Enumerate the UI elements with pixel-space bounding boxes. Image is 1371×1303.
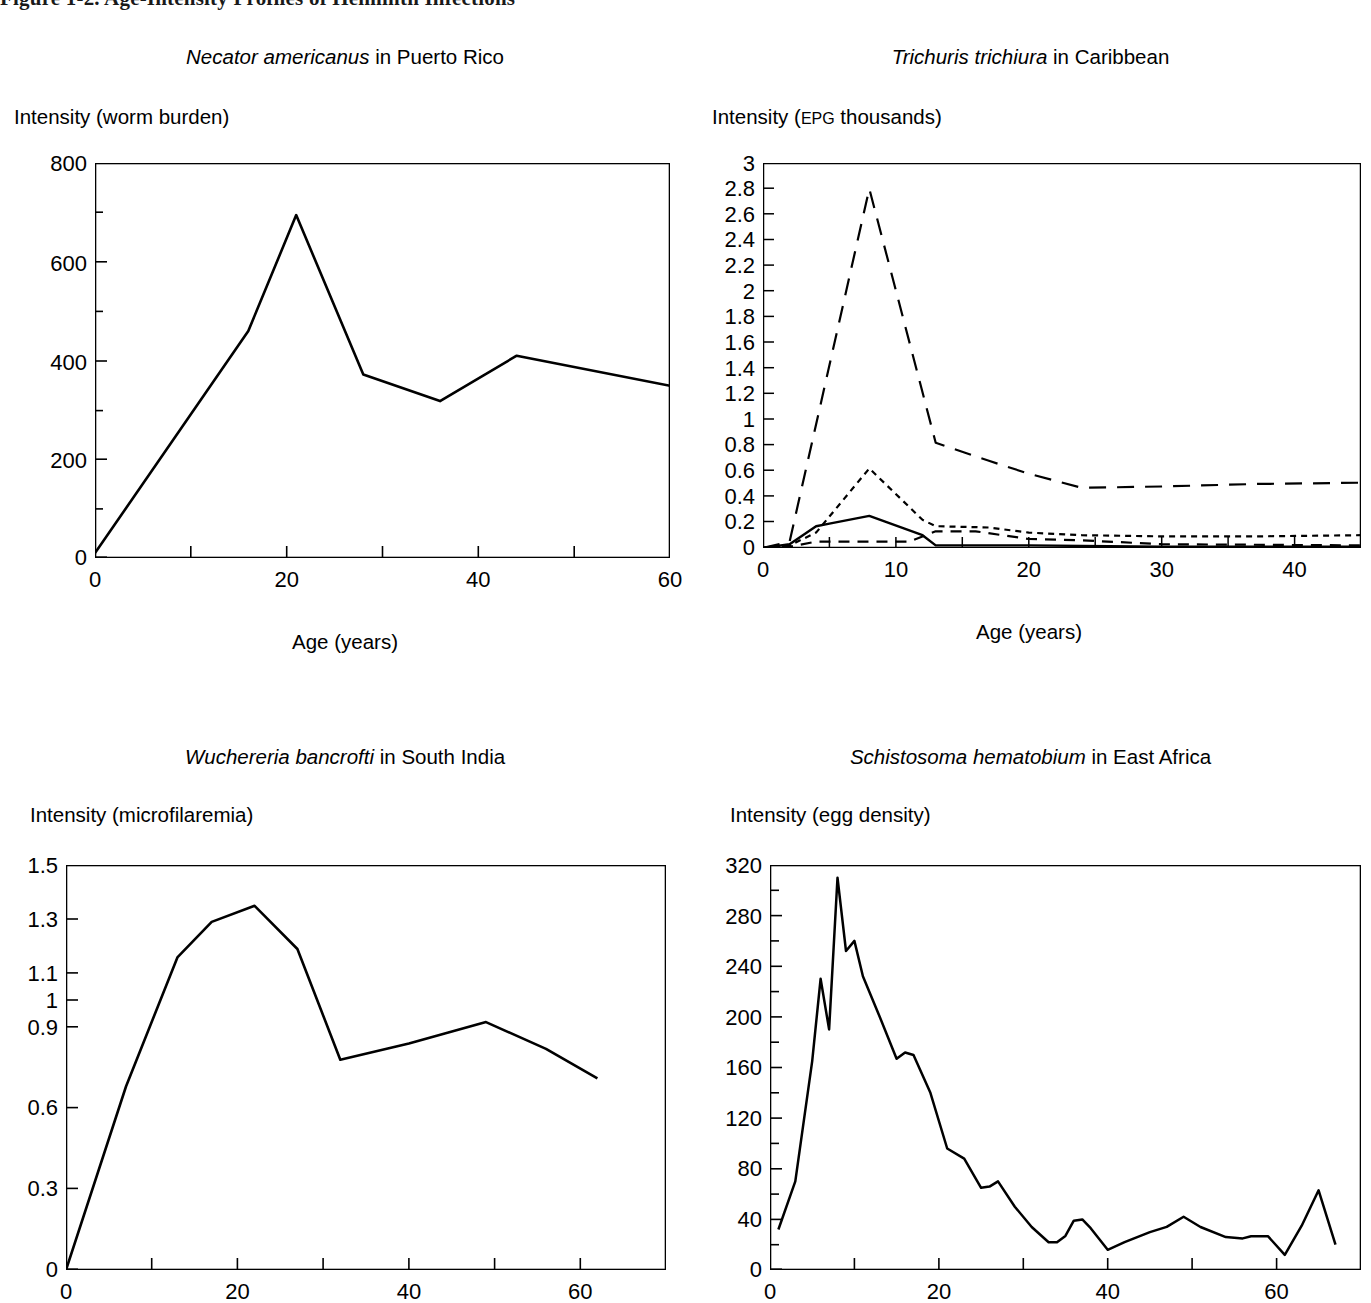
y-axis-label: Intensity (egg density) bbox=[730, 803, 931, 827]
x-axis-label: Age (years) bbox=[0, 630, 690, 654]
y-tick-label: 800 bbox=[17, 151, 87, 177]
y-tick-label: 1 bbox=[705, 407, 755, 433]
panel-wuchereria-south-india: Wuchereria bancrofti in South India Inte… bbox=[0, 745, 690, 1298]
y-tick-label: 2.6 bbox=[705, 202, 755, 228]
y-tick-label: 1.1 bbox=[4, 961, 58, 987]
panel-title: Necator americanus in Puerto Rico bbox=[0, 45, 690, 69]
x-axis-ticks bbox=[770, 1258, 1361, 1270]
y-tick-label: 1.3 bbox=[4, 907, 58, 933]
y-tick-label: 240 bbox=[700, 954, 762, 980]
panel-title: Schistosoma hematobium in East Africa bbox=[690, 745, 1371, 769]
x-tick-label: 0 bbox=[738, 557, 788, 583]
y-axis-ticks bbox=[770, 890, 782, 1269]
y-tick-label: 320 bbox=[700, 853, 762, 879]
x-axis-ticks bbox=[95, 546, 670, 558]
plot-area: 0 0.3 0.6 0.9 1 1.1 1.3 1.5 0 20 40 60 bbox=[66, 865, 666, 1270]
plot-frame bbox=[771, 866, 1361, 1270]
data-series-microfilaremia bbox=[66, 906, 597, 1270]
y-tick-label: 1.8 bbox=[705, 304, 755, 330]
y-axis-label-text: Intensity ( bbox=[712, 105, 801, 128]
panel-title-location: in East Africa bbox=[1086, 745, 1211, 768]
y-tick-label: 0.2 bbox=[705, 509, 755, 535]
y-tick-label: 2.8 bbox=[705, 176, 755, 202]
x-tick-label: 20 bbox=[1004, 557, 1054, 583]
y-tick-label: 600 bbox=[17, 251, 87, 277]
line-chart-svg bbox=[95, 163, 670, 558]
x-tick-label: 20 bbox=[262, 567, 312, 593]
figure-caption: Figure 1-2. Age-Intensity Profiles of He… bbox=[0, 0, 760, 11]
y-axis-label-text: Intensity (worm burden) bbox=[14, 105, 229, 128]
x-tick-label: 40 bbox=[1083, 1279, 1133, 1303]
line-chart-svg bbox=[763, 163, 1361, 548]
y-tick-label: 2.2 bbox=[705, 253, 755, 279]
y-tick-label: 0.8 bbox=[705, 432, 755, 458]
y-tick-label: 0.6 bbox=[4, 1095, 58, 1121]
panel-title-location: in South India bbox=[374, 745, 505, 768]
panel-schistosoma-east-africa: Schistosoma hematobium in East Africa In… bbox=[690, 745, 1371, 1298]
y-tick-label: 1.2 bbox=[705, 381, 755, 407]
x-axis-label: Age (years) bbox=[730, 620, 1328, 644]
x-tick-label: 10 bbox=[871, 557, 921, 583]
data-series-community-a bbox=[763, 189, 1361, 548]
panel-title-species: Necator americanus bbox=[186, 45, 369, 68]
panel-title-location: in Puerto Rico bbox=[370, 45, 504, 68]
y-axis-ticks bbox=[66, 919, 78, 1269]
line-chart-svg bbox=[770, 865, 1361, 1270]
y-tick-label: 3 bbox=[705, 151, 755, 177]
y-tick-label: 200 bbox=[700, 1005, 762, 1031]
x-tick-label: 60 bbox=[1252, 1279, 1302, 1303]
panel-title-species: Trichuris trichiura bbox=[892, 45, 1048, 68]
y-tick-label: 2.4 bbox=[705, 227, 755, 253]
plot-frame bbox=[67, 866, 666, 1270]
y-axis-ticks bbox=[763, 188, 774, 547]
panel-title: Trichuris trichiura in Caribbean bbox=[690, 45, 1371, 69]
y-tick-label: 400 bbox=[17, 350, 87, 376]
plot-area: 0 0.2 0.4 0.6 0.8 1 1.2 1.4 1.6 1.8 2 2.… bbox=[763, 163, 1361, 548]
panel-title: Wuchereria bancrofti in South India bbox=[0, 745, 690, 769]
y-tick-label: 0.4 bbox=[705, 484, 755, 510]
plot-frame bbox=[764, 164, 1361, 548]
y-tick-label: 280 bbox=[700, 904, 762, 930]
y-tick-label: 80 bbox=[700, 1156, 762, 1182]
x-tick-label: 40 bbox=[453, 567, 503, 593]
y-tick-label: 40 bbox=[700, 1207, 762, 1233]
panel-title-species: Schistosoma hematobium bbox=[850, 745, 1086, 768]
x-tick-label: 20 bbox=[212, 1279, 262, 1303]
x-tick-label: 60 bbox=[645, 567, 695, 593]
y-tick-label: 1.5 bbox=[4, 853, 58, 879]
line-chart-svg bbox=[66, 865, 666, 1270]
y-axis-label-text: Intensity (egg density) bbox=[730, 803, 931, 826]
y-axis-label: Intensity (worm burden) bbox=[14, 105, 229, 129]
y-tick-label: 0.9 bbox=[4, 1015, 58, 1041]
data-series-community-c bbox=[763, 516, 1361, 548]
panel-title-location: in Caribbean bbox=[1047, 45, 1169, 68]
y-tick-label: 200 bbox=[17, 448, 87, 474]
x-tick-label: 40 bbox=[1270, 557, 1320, 583]
y-axis-label-unit: EPG bbox=[801, 110, 835, 127]
y-axis-ticks bbox=[95, 212, 107, 557]
y-tick-label: 0.6 bbox=[705, 458, 755, 484]
y-axis-label-tail: thousands) bbox=[835, 105, 942, 128]
data-series-egg-density bbox=[778, 878, 1335, 1255]
x-tick-label: 40 bbox=[384, 1279, 434, 1303]
plot-frame bbox=[96, 164, 670, 558]
y-tick-label: 1 bbox=[4, 988, 58, 1014]
x-tick-label: 20 bbox=[914, 1279, 964, 1303]
y-axis-label: Intensity (EPG thousands) bbox=[712, 105, 942, 129]
y-axis-label-text: Intensity (microfilaremia) bbox=[30, 803, 253, 826]
panel-trichuris-caribbean: Trichuris trichiura in Caribbean Intensi… bbox=[690, 45, 1371, 705]
x-tick-label: 30 bbox=[1137, 557, 1187, 583]
panel-title-species: Wuchereria bancrofti bbox=[185, 745, 374, 768]
y-tick-label: 1.6 bbox=[705, 330, 755, 356]
x-tick-label: 0 bbox=[70, 567, 120, 593]
y-tick-label: 160 bbox=[700, 1055, 762, 1081]
x-axis-ticks bbox=[66, 1258, 666, 1270]
y-axis-label: Intensity (microfilaremia) bbox=[30, 803, 253, 827]
x-tick-label: 60 bbox=[555, 1279, 605, 1303]
x-tick-label: 0 bbox=[745, 1279, 795, 1303]
data-series-community-b bbox=[763, 468, 1361, 548]
data-series-worm-burden bbox=[95, 215, 670, 553]
y-tick-label: 2 bbox=[705, 279, 755, 305]
x-tick-label: 0 bbox=[41, 1279, 91, 1303]
